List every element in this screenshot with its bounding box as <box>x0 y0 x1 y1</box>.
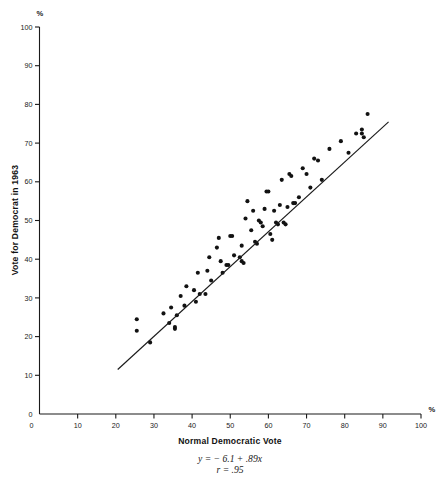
data-point <box>266 189 270 193</box>
x-axis-title: Normal Democratic Vote <box>178 436 282 446</box>
x-tick-label: 100 <box>415 421 427 430</box>
data-point <box>268 232 272 236</box>
data-point <box>135 317 139 321</box>
data-point <box>263 207 267 211</box>
y-tick-label: 40 <box>25 255 33 264</box>
correlation-coefficient: r = .95 <box>217 464 244 475</box>
data-point <box>230 234 234 238</box>
data-point <box>297 195 301 199</box>
data-point <box>278 203 282 207</box>
data-point <box>259 220 263 224</box>
y-tick-label: 90 <box>25 61 33 70</box>
data-point <box>305 172 309 176</box>
x-tick-label: 90 <box>379 421 387 430</box>
x-tick-label: 80 <box>341 421 349 430</box>
data-point <box>272 209 276 213</box>
data-point <box>192 288 196 292</box>
x-tick-label: 0 <box>30 421 34 430</box>
y-axis-percent-symbol: % <box>37 9 44 18</box>
data-point <box>242 261 246 265</box>
data-point <box>173 325 177 329</box>
data-point <box>354 131 358 135</box>
data-point <box>301 166 305 170</box>
x-tick-label: 60 <box>264 421 272 430</box>
data-point <box>339 139 343 143</box>
y-tick-label: 60 <box>25 177 33 186</box>
data-point <box>135 329 139 333</box>
data-point <box>289 174 293 178</box>
y-tick-label: 80 <box>25 100 33 109</box>
data-point <box>179 294 183 298</box>
data-point <box>161 311 165 315</box>
data-point <box>327 147 331 151</box>
figure-container: 0102030405060708090100 01020304050607080… <box>0 0 442 484</box>
y-tick-label: 100 <box>21 23 33 32</box>
data-point <box>360 131 364 135</box>
data-point <box>205 269 209 273</box>
data-point <box>217 236 221 240</box>
data-point <box>249 228 253 232</box>
x-tick-label: 30 <box>150 421 158 430</box>
data-point <box>308 186 312 190</box>
y-tick-label: 20 <box>25 332 33 341</box>
scatter-plot: 0102030405060708090100 01020304050607080… <box>0 0 442 484</box>
x-tick-label: 20 <box>112 421 120 430</box>
data-point <box>196 271 200 275</box>
x-tick-label: 50 <box>226 421 234 430</box>
data-point <box>240 244 244 248</box>
data-point <box>215 246 219 250</box>
plot-background <box>0 0 442 484</box>
y-axis-title: Vote for Democrat in 1963 <box>10 165 20 275</box>
y-tick-label: 10 <box>25 371 33 380</box>
data-point <box>232 253 236 257</box>
data-point <box>312 157 316 161</box>
y-tick-label: 70 <box>25 139 33 148</box>
data-point <box>270 238 274 242</box>
data-point <box>360 128 364 132</box>
data-point <box>346 151 350 155</box>
data-point <box>194 300 198 304</box>
data-point <box>209 278 213 282</box>
y-tick-label: 30 <box>25 294 33 303</box>
x-axis-percent-symbol: % <box>429 405 436 414</box>
data-point <box>251 209 255 213</box>
data-point <box>284 222 288 226</box>
data-point <box>316 158 320 162</box>
data-point <box>184 284 188 288</box>
data-point <box>245 199 249 203</box>
data-point <box>219 259 223 263</box>
data-point <box>243 217 247 221</box>
x-tick-label: 10 <box>74 421 82 430</box>
data-point <box>207 255 211 259</box>
y-tick-label: 50 <box>25 216 33 225</box>
data-point <box>280 178 284 182</box>
x-tick-label: 40 <box>188 421 196 430</box>
data-point <box>169 306 173 310</box>
data-point <box>261 224 265 228</box>
data-point <box>285 205 289 209</box>
x-tick-label: 70 <box>303 421 311 430</box>
data-point <box>203 292 207 296</box>
data-point <box>293 201 297 205</box>
data-point <box>362 135 366 139</box>
regression-equation: y = − 6.1 + .89x <box>197 453 263 464</box>
y-tick-label: 0 <box>29 410 33 419</box>
data-point <box>366 112 370 116</box>
